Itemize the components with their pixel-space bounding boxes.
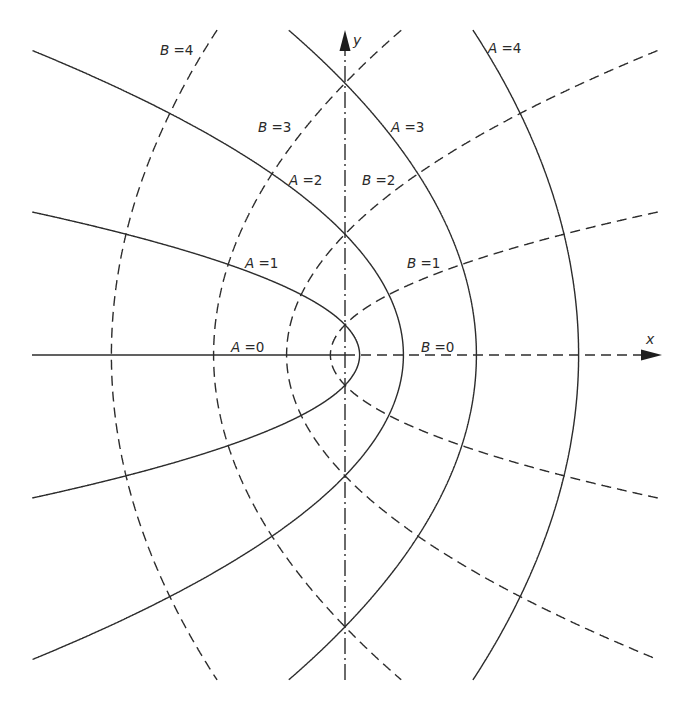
label-a-0: A =0 xyxy=(230,339,264,355)
label-a-3: A =3 xyxy=(390,119,424,135)
label-b-0: B =0 xyxy=(421,339,454,355)
label-b-4: B =4 xyxy=(160,42,193,58)
label-a-2: A =2 xyxy=(288,172,322,188)
label-b-1: B =1 xyxy=(407,255,440,271)
label-b-2: B =2 xyxy=(362,172,395,188)
label-a-1: A =1 xyxy=(244,255,278,271)
parabolic-coordinates-diagram: y x B =4 A =4 B =3 A =3 A =2 B =2 A =1 B… xyxy=(0,0,688,710)
label-b-3: B =3 xyxy=(258,119,291,135)
label-a-4: A =4 xyxy=(487,40,521,56)
x-axis-label: x xyxy=(645,331,655,347)
y-axis-label: y xyxy=(352,32,362,48)
